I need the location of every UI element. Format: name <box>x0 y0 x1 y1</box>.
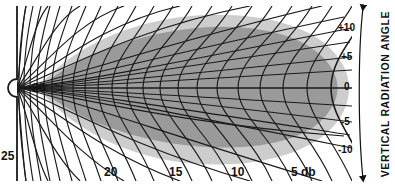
y-axis-title: VERTICAL RADIATION ANGLE <box>374 0 395 187</box>
left-edge-label-30: 30 <box>32 82 45 94</box>
x-tick-label-5db: 5 db <box>291 166 316 178</box>
left-edge-label-25: 25 <box>1 150 14 162</box>
radiation-pattern-chart: 20 15 10 5 db 30 25 +10 +5 0 -5 -10 VERT… <box>0 0 395 187</box>
y-tick-label-plus10: +10 <box>338 23 355 33</box>
x-tick-label-20: 20 <box>104 166 117 178</box>
x-tick-label-15: 15 <box>169 166 182 178</box>
y-tick-label-zero: 0 <box>344 82 350 92</box>
x-tick-label-10: 10 <box>231 166 244 178</box>
chart-canvas <box>0 0 395 187</box>
y-tick-label-minus5: -5 <box>341 117 350 127</box>
y-tick-label-plus5: +5 <box>341 52 352 62</box>
y-tick-label-minus10: -10 <box>338 145 352 155</box>
y-axis-title-text: VERTICAL RADIATION ANGLE <box>379 10 391 176</box>
